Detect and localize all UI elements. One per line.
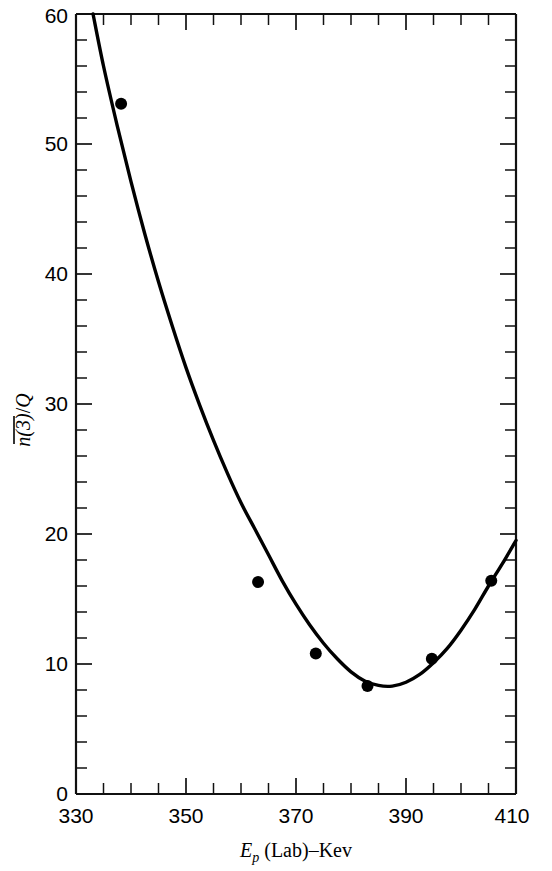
x-tick-label: 330 (58, 804, 93, 827)
x-tick-label: 410 (494, 804, 529, 827)
x-tick-label: 370 (278, 804, 313, 827)
svg-text:n(3)/Q: n(3)/Q (12, 393, 35, 447)
x-tick-label: 350 (168, 804, 203, 827)
x-axis-title-symbol: E (239, 839, 252, 861)
y-tick-label: 20 (45, 522, 68, 545)
top-spine-ticks (76, 14, 516, 30)
chart-figure: 0 10 20 30 40 50 60 330 350 370 390 410 … (0, 0, 552, 871)
y-tick-label: 40 (45, 262, 68, 285)
y-axis-title-denominator: Q (12, 393, 34, 408)
x-axis-title: Ep (Lab)–Kev (239, 839, 352, 865)
data-point (426, 653, 438, 665)
x-tick-labels: 330 350 370 390 410 (58, 804, 529, 827)
fitted-curve (93, 14, 516, 686)
data-point (252, 576, 264, 588)
axes-frame (76, 14, 516, 794)
y-tick-labels: 0 10 20 30 40 50 60 (45, 4, 68, 805)
y-tick-label: 10 (45, 652, 68, 675)
y-axis-title: n(3)/Q (12, 393, 35, 447)
x-axis-title-subscript: p (251, 850, 259, 865)
x-tick-label: 390 (388, 804, 423, 827)
right-spine-ticks (500, 14, 516, 794)
data-point (310, 648, 322, 660)
y-tick-label: 60 (45, 4, 68, 27)
y-tick-label: 0 (56, 782, 68, 805)
svg-text:Ep (Lab)–Kev: Ep (Lab)–Kev (239, 839, 352, 865)
y-tick-label: 30 (45, 392, 68, 415)
y-axis-ticks (76, 14, 92, 794)
y-tick-label: 50 (45, 132, 68, 155)
data-point (485, 575, 497, 587)
data-series-layer (93, 14, 516, 692)
x-axis-title-rest: (Lab)–Kev (259, 839, 352, 862)
y-axis-title-numerator: n(3) (12, 413, 35, 447)
data-point (362, 680, 374, 692)
data-point (115, 98, 127, 110)
x-axis-ticks (76, 778, 516, 794)
plot-area: 0 10 20 30 40 50 60 330 350 370 390 410 … (0, 0, 552, 871)
